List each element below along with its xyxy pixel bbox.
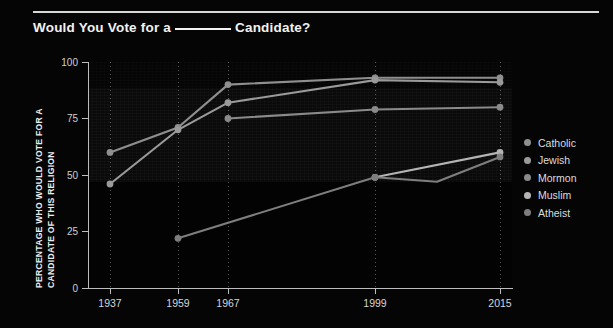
series-point-jewish-2015: [497, 79, 504, 86]
legend-label-muslim: Muslim: [538, 189, 571, 201]
series-point-catholic-1937: [107, 149, 114, 156]
series-point-jewish-1959: [175, 126, 182, 133]
series-layer: [0, 0, 613, 328]
series-point-mormon-1999: [372, 106, 379, 113]
chart-page: Would You Vote for aCandidate? 0 25 50 7…: [0, 0, 613, 328]
legend-label-jewish: Jewish: [538, 154, 570, 166]
legend-label-catholic: Catholic: [538, 137, 576, 149]
legend-item-muslim[interactable]: Muslim: [524, 187, 577, 205]
legend-label-atheist: Atheist: [538, 207, 570, 219]
series-point-jewish-1937: [107, 181, 114, 188]
legend-swatch-mormon: [524, 174, 531, 181]
legend-swatch-muslim: [524, 192, 531, 199]
series-line-catholic: [110, 78, 500, 153]
series-line-atheist: [178, 157, 500, 238]
legend-swatch-catholic: [524, 139, 531, 146]
chart-area: 0 25 50 75 100 1937 1959 1967 1999 2015 …: [0, 0, 613, 328]
legend-item-jewish[interactable]: Jewish: [524, 152, 577, 170]
legend-item-catholic[interactable]: Catholic: [524, 134, 577, 152]
series-point-catholic-1967: [225, 81, 232, 88]
series-point-jewish-1999: [372, 77, 379, 84]
series-point-atheist-1999: [372, 174, 379, 181]
legend-swatch-atheist: [524, 209, 531, 216]
legend-item-atheist[interactable]: Atheist: [524, 204, 577, 222]
series-point-atheist-2015: [497, 154, 504, 161]
series-point-mormon-1967: [225, 115, 232, 122]
legend: Catholic Jewish Mormon Muslim Atheist: [524, 134, 577, 222]
series-point-mormon-2015: [497, 104, 504, 111]
series-point-jewish-1967: [225, 99, 232, 106]
legend-label-mormon: Mormon: [538, 172, 577, 184]
series-point-atheist-1959: [175, 235, 182, 242]
series-line-mormon: [228, 107, 500, 118]
legend-item-mormon[interactable]: Mormon: [524, 169, 577, 187]
legend-swatch-jewish: [524, 157, 531, 164]
